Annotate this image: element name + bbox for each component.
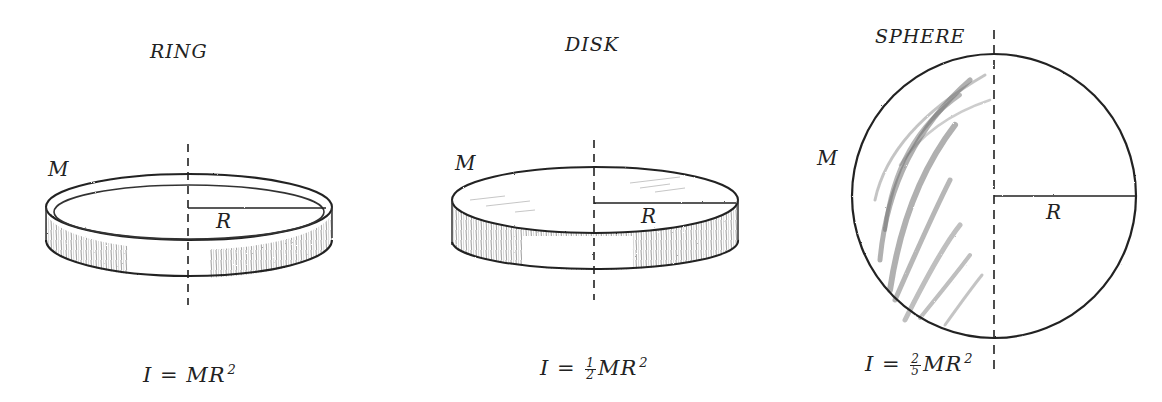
formula-body: MR — [923, 352, 962, 376]
formula-body: MR — [186, 363, 225, 387]
formula-exponent: 2 — [228, 362, 237, 377]
coefficient-denominator: 5 — [910, 366, 921, 377]
disk-formula: I = 1 2 MR2 — [540, 355, 649, 381]
formula-equals: = — [160, 363, 179, 387]
sphere-mass-label: M — [817, 146, 838, 170]
formula-coefficient: 1 2 — [585, 358, 596, 381]
ring-mass-label: M — [48, 157, 69, 181]
ring-title: RING — [150, 40, 208, 62]
ring-formula: I = MR2 — [143, 362, 237, 387]
disk-radius-label: R — [641, 204, 657, 228]
disk-mass-label: M — [455, 151, 476, 175]
formula-exponent: 2 — [639, 355, 648, 370]
formula-equals: = — [557, 356, 576, 380]
ring-radius-label: R — [216, 209, 232, 233]
formula-lhs: I — [143, 363, 152, 387]
formula-lhs: I — [865, 352, 874, 376]
sphere-formula: I = 2 5 MR2 — [865, 351, 974, 377]
formula-lhs: I — [540, 356, 549, 380]
disk-title: DISK — [565, 33, 619, 55]
ring-figure — [46, 144, 332, 305]
formula-equals: = — [882, 352, 901, 376]
sphere-figure — [852, 30, 1136, 372]
formula-coefficient: 2 5 — [910, 354, 921, 377]
sphere-radius-label: R — [1046, 200, 1062, 224]
formula-exponent: 2 — [964, 351, 973, 366]
coefficient-denominator: 2 — [585, 370, 596, 381]
formula-body: MR — [598, 356, 637, 380]
sphere-title: SPHERE — [875, 25, 965, 47]
disk-figure — [452, 140, 738, 300]
